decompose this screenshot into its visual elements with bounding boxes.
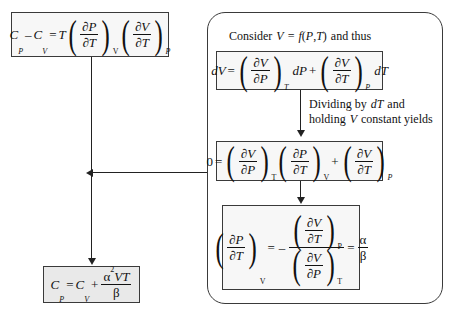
zero: 0	[207, 155, 214, 168]
alpha-symbol: α	[103, 270, 110, 283]
equals-sign: =	[215, 155, 222, 168]
fraction-dV-dP: ∂V ∂P	[305, 251, 323, 280]
denominator: ∂T	[227, 248, 245, 262]
paren-subscript-p: P	[365, 84, 370, 92]
numerator: ∂V	[133, 20, 151, 35]
symbol-c: C	[10, 28, 19, 41]
fraction-alpha-beta: α β	[358, 233, 369, 262]
paren-subscript-p: P	[338, 243, 342, 251]
paren-subscript-t: T	[271, 174, 276, 182]
numerator: ∂V	[251, 56, 269, 71]
arrowhead-zero-to-ratio	[297, 197, 305, 204]
term-dT: dT	[371, 98, 384, 110]
var-v: V	[313, 216, 321, 229]
numerator: ∂V	[305, 251, 323, 266]
var-t: T	[314, 232, 321, 245]
var-p: P	[235, 233, 243, 246]
equals-sign: =	[66, 278, 73, 291]
numerator: ∂P	[80, 20, 98, 35]
symbol-c2: C	[76, 278, 85, 291]
var-v: V	[260, 56, 268, 69]
var-v: V	[341, 56, 349, 69]
diagram-canvas: CP – CV = T ( ∂P ∂T )V ( ∂V ∂T )P CP	[0, 0, 452, 313]
var-t: T	[236, 249, 243, 262]
fraction-alpha2VT-beta: α2VT β	[101, 270, 131, 299]
word-holding: holding	[309, 113, 346, 125]
var-t: T	[142, 36, 149, 49]
subscript-p: P	[18, 48, 23, 56]
connector-horizontal-from-panel	[92, 172, 207, 173]
equation-box-cp-final: CP = CV + α2VT β	[43, 266, 140, 303]
var-p: P	[247, 163, 255, 176]
denominator: ∂P	[251, 71, 269, 85]
subscript-p: P	[59, 296, 64, 304]
paren-close-2: )	[155, 19, 163, 51]
fraction-dV-dT: ∂V ∂T	[333, 56, 351, 85]
var-p: P	[313, 267, 321, 280]
equation-cp-minus-cv: CP – CV = T ( ∂P ∂T )V ( ∂V ∂T )P	[10, 19, 171, 51]
term-dT: dT	[374, 64, 388, 77]
denominator-derivative: ( ∂V ∂P )T	[288, 248, 344, 281]
denominator: ∂T	[80, 35, 98, 49]
paren-close-2: )	[313, 145, 321, 177]
denominator: β	[111, 285, 122, 299]
denominator: β	[358, 248, 369, 262]
plus-sign: +	[331, 155, 338, 168]
word-and: and	[387, 98, 404, 110]
paren-open-1: (	[239, 55, 247, 87]
var-v: V	[363, 147, 371, 160]
paren-close: )	[323, 30, 327, 42]
minus-sign: –	[279, 241, 286, 254]
denominator: ∂T	[133, 35, 151, 49]
paren-open-den: (	[293, 249, 301, 281]
numerator: α	[358, 233, 369, 248]
paren-open-2: (	[279, 145, 287, 177]
words-dividing-by: Dividing by	[309, 98, 367, 110]
plus-sign: +	[309, 64, 316, 77]
annotation-line-2: holding V constant yields	[309, 112, 433, 127]
symbol-t: T	[58, 28, 65, 41]
paren-close-1: )	[102, 19, 110, 51]
arrowhead-into-trunk	[86, 169, 93, 177]
var-t: T	[316, 30, 323, 42]
var-t: T	[364, 163, 371, 176]
denominator: ∂P	[305, 266, 323, 280]
fraction-dP-dT: ∂P ∂T	[80, 20, 98, 49]
arrowhead-dv-to-zero	[297, 130, 305, 137]
subscript-v: V	[84, 296, 89, 304]
denominator: ∂P	[239, 162, 257, 176]
equals-sign: =	[288, 30, 295, 42]
plus-sign: +	[91, 278, 98, 291]
numerator: ∂V	[355, 147, 373, 162]
connector-dv-to-zero	[300, 90, 301, 132]
numerator: ∂V	[333, 56, 351, 71]
equals-sign: =	[49, 28, 56, 41]
var-v: V	[141, 20, 149, 33]
alpha-symbol: α	[360, 233, 367, 246]
subscript-v: V	[42, 48, 47, 56]
var-t: T	[299, 163, 306, 176]
paren-subscript-v: V	[260, 278, 266, 286]
denominator: ∂T	[291, 162, 309, 176]
vars-vt: VT	[114, 270, 129, 283]
paren-open-2: (	[121, 19, 129, 51]
beta-symbol: β	[113, 286, 120, 299]
term-dP: dP	[292, 64, 306, 77]
paren-close-3: )	[377, 145, 385, 177]
panel-middle-annotation: Dividing by dT and holding V constant yi…	[309, 97, 433, 127]
denominator: ∂T	[355, 162, 373, 176]
equation-box-cp-minus-cv: CP – CV = T ( ∂P ∂T )V ( ∂V ∂T )P	[11, 12, 169, 57]
numerator: ∂V	[239, 147, 257, 162]
fraction-dV-dP: ∂V ∂P	[251, 56, 269, 85]
numerator: ∂V	[305, 216, 323, 231]
equals-sign: =	[267, 241, 274, 254]
denominator: ∂T	[305, 231, 323, 245]
var-v: V	[350, 113, 357, 125]
paren-close-1: )	[273, 55, 281, 87]
symbol-c2: C	[34, 28, 43, 41]
var-p: P	[260, 72, 268, 85]
words-constant-yields: constant yields	[361, 113, 433, 125]
paren-subscript-p: P	[166, 48, 171, 56]
symbol-c: C	[51, 278, 60, 291]
paren-open-2: (	[321, 55, 329, 87]
